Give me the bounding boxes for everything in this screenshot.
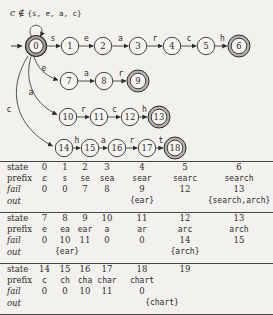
cell: 15 [55, 264, 75, 276]
state-node-6: 6 [228, 35, 250, 57]
edge-label: h [75, 136, 80, 145]
cell: 0 [95, 235, 119, 246]
cell: 13 [205, 184, 273, 195]
fail-row: fail0010110 [0, 286, 273, 297]
cell: 3 [95, 162, 119, 174]
cell: 0 [34, 162, 55, 174]
state-number: 9 [135, 76, 140, 86]
edge-label: r [81, 105, 86, 114]
state-node-7: 7 [60, 72, 77, 89]
cell: 12 [165, 213, 205, 225]
cell: 0 [55, 286, 75, 297]
cell [205, 246, 273, 264]
edge-label: r [153, 34, 158, 43]
cell: se [75, 173, 95, 184]
cell: cha [75, 275, 95, 286]
state-node-15: 15 [81, 139, 98, 156]
cell: a [95, 224, 119, 235]
cell: searc [165, 173, 205, 184]
edge-label: e [42, 64, 47, 73]
state-number: 13 [154, 112, 165, 122]
cell: arch [205, 224, 273, 235]
caption-complement-label: c ∉ {s, e, a, c} [10, 8, 82, 18]
state-number: 6 [236, 41, 241, 51]
state-node-17: 17 [138, 139, 155, 156]
row-label-fail: fail [0, 286, 34, 297]
cell [34, 195, 55, 213]
state-node-10: 10 [59, 108, 76, 125]
state-node-8: 8 [95, 72, 112, 89]
edge-label: c [187, 34, 192, 43]
edge-label: s [51, 34, 56, 43]
cell: 2 [75, 162, 95, 174]
cell: 15 [205, 235, 273, 246]
cell: 0 [119, 286, 165, 297]
cell: 9 [119, 184, 165, 195]
state-node-4: 4 [163, 37, 180, 54]
row-label-prefix: prefix [0, 173, 34, 184]
cell: e [34, 224, 55, 235]
row-label-out: out [0, 297, 34, 315]
cell [165, 195, 205, 213]
row-label-state: state [0, 213, 34, 225]
prefix-row: prefixεsseseasearsearcsearch [0, 173, 273, 184]
cell: 10 [75, 286, 95, 297]
table-section-3: state141516171819prefixcchchacharchartfa… [0, 264, 273, 315]
edge-label: h [220, 34, 225, 43]
row-label-fail: fail [0, 184, 34, 195]
cell: 12 [165, 184, 205, 195]
cell: 13 [205, 213, 273, 225]
cell: 16 [75, 264, 95, 276]
state-number: 5 [203, 41, 208, 51]
edge-label: h [142, 105, 147, 114]
cell: 8 [95, 184, 119, 195]
cell [205, 297, 273, 315]
cell: 10 [95, 213, 119, 225]
state-row: state141516171819 [0, 264, 273, 276]
out-set: {ear} [119, 195, 165, 213]
state-number: 17 [142, 143, 153, 153]
edge-label: c [112, 105, 117, 114]
cell: c [34, 275, 55, 286]
edge-label: r [119, 69, 124, 78]
cell: 7 [34, 213, 55, 225]
edge-label: e [84, 34, 89, 43]
cell: sea [95, 173, 119, 184]
edge-label: a [101, 136, 106, 145]
cell: 9 [75, 213, 95, 225]
state-number: 16 [112, 143, 123, 153]
state-number: 7 [66, 76, 71, 86]
cell [205, 286, 273, 297]
cell: ch [55, 275, 75, 286]
state-node-2: 2 [94, 37, 111, 54]
cell [205, 264, 273, 276]
cell: 14 [165, 235, 205, 246]
cell: 14 [34, 264, 55, 276]
fail-row: fail01011001415 [0, 235, 273, 246]
cell: 11 [75, 235, 95, 246]
cell [55, 297, 75, 315]
out-set: {chart} [119, 297, 205, 315]
state-number: 12 [125, 112, 136, 122]
cell [119, 246, 165, 264]
row-label-out: out [0, 195, 34, 213]
cell [165, 286, 205, 297]
state-node-18: 18 [164, 137, 186, 159]
row-label-out: out [0, 246, 34, 264]
out-row: out{ear}{search,arch} [0, 195, 273, 213]
cell: 6 [205, 162, 273, 174]
state-number: 15 [85, 143, 96, 153]
row-label-prefix: prefix [0, 224, 34, 235]
out-set: {ear} [55, 246, 75, 264]
state-number: 0 [33, 41, 38, 51]
cell [34, 297, 55, 315]
cell [95, 195, 119, 213]
out-set: {arch} [165, 246, 205, 264]
cell: 7 [75, 184, 95, 195]
table-section-1: state0123456prefixεsseseasearsearcsearch… [0, 162, 273, 213]
out-row: out{ear}{arch} [0, 246, 273, 264]
state-number: 3 [135, 41, 140, 51]
state-node-3: 3 [129, 37, 146, 54]
cell: 0 [119, 235, 165, 246]
state-row: state0123456 [0, 162, 273, 174]
